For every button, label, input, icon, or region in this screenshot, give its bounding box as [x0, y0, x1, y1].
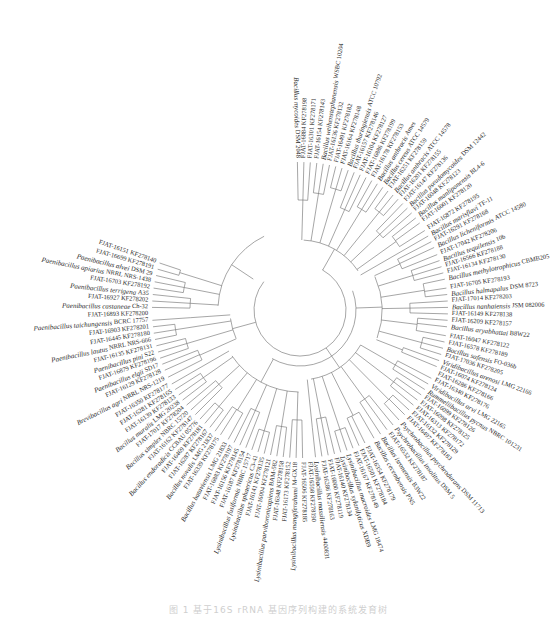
subclade-arc: [201, 373, 207, 381]
leaf-branch: [153, 295, 191, 299]
subclade-stem: [302, 200, 303, 240]
leaf-branch: [383, 213, 412, 238]
leaf-branch: [187, 381, 216, 405]
subclade-stem: [382, 308, 410, 309]
leaf-branch: [384, 199, 399, 215]
strain-id: JSM 082006: [512, 301, 545, 309]
leaf-branch: [312, 427, 315, 457]
tree-branches: [152, 162, 448, 458]
leaf-branch: [362, 184, 378, 210]
species-name: Paenibacillus castaneae: [61, 301, 132, 310]
subclade-stem: [187, 330, 233, 344]
subclade-stem: [357, 242, 396, 270]
subclade-stem: [375, 264, 400, 276]
strain-id: DSM 12442: [460, 131, 488, 158]
subclade-stem: [297, 392, 298, 420]
leaf-branch: [303, 162, 304, 200]
leaf-branch: [271, 426, 277, 455]
subclade-arc: [251, 408, 260, 412]
subclade-stem: [190, 303, 218, 305]
subclade-stem: [307, 380, 312, 428]
subclade-stem: [337, 209, 362, 250]
strain-id: DSM 11713: [460, 487, 486, 515]
subclade-stem: [255, 385, 266, 411]
leaf-branch: [179, 378, 204, 395]
subclade-arc: [398, 259, 402, 269]
strain-id: M-GX18: [291, 462, 299, 486]
leaf-branch: [296, 420, 297, 458]
leaf-branch: [210, 410, 223, 427]
strain-id: 4400831: [321, 537, 330, 560]
subclade-stem: [176, 321, 231, 330]
leaf-branch: [340, 172, 354, 207]
subclade-arc: [392, 237, 399, 247]
leaf-branch: [183, 382, 207, 400]
clade-stem: [323, 249, 335, 270]
strain-id: ATCC 14578: [425, 122, 452, 153]
leaf-branch: [154, 288, 184, 293]
leaf-branch: [302, 420, 303, 458]
leaf-branch: [409, 236, 428, 247]
strain-id: XDB9: [361, 530, 372, 548]
leaf-branch: [402, 352, 437, 367]
leaf-branch: [384, 404, 399, 420]
strain-id: ATCC 10792: [366, 73, 384, 107]
leaf-branch: [366, 187, 383, 212]
leaf-label: Paenibacillus castaneae Ch-32: [61, 301, 148, 311]
leaf-branch: [420, 348, 441, 355]
clade-stem: [232, 265, 254, 279]
leaf-branch: [152, 318, 190, 321]
leaf-branch: [316, 419, 322, 457]
subclade-stem: [180, 273, 222, 286]
leaf-branch: [416, 331, 446, 336]
subclade-arc: [215, 403, 223, 410]
subclade-arc: [390, 378, 396, 386]
leaf-branch: [246, 412, 260, 447]
leaf-branch: [423, 337, 445, 342]
leaf-branch: [379, 195, 393, 212]
leaf-branch: [158, 269, 179, 275]
leaf-branch: [335, 431, 341, 452]
leaf-branch: [352, 416, 365, 443]
leaf-branch: [359, 412, 374, 438]
leaf-branch: [425, 288, 447, 291]
subclade-stem: [311, 194, 319, 241]
leaf-branch: [402, 255, 437, 269]
strain-id: LMG 18474: [369, 520, 386, 553]
subclade-stem: [381, 290, 424, 297]
subclade-stem: [313, 379, 321, 418]
leaf-branch: [172, 373, 191, 384]
subclade-stem: [361, 345, 396, 365]
leaf-branch: [410, 307, 448, 308]
leaf-branch: [258, 431, 264, 452]
leaf-branch: [345, 428, 353, 449]
clade-stem: [261, 359, 273, 382]
subclade-stem: [264, 389, 277, 431]
leaf-branch: [228, 413, 243, 439]
subclade-stem: [376, 340, 402, 350]
leaf-branch: [410, 301, 448, 303]
leaf-branch: [340, 430, 347, 451]
leaf-branch: [331, 166, 336, 187]
leaf-branch: [390, 386, 413, 405]
subclade-stem: [191, 351, 229, 373]
leaf-branch: [162, 350, 197, 364]
leaf-branch: [394, 382, 418, 400]
leaf-branch: [400, 231, 425, 247]
strain-id: LMG 22166: [500, 379, 532, 396]
leaf-branch: [393, 395, 409, 410]
leaf-branch: [264, 432, 269, 453]
strain-id: Ch-32: [132, 302, 148, 309]
leaf-branch: [410, 313, 448, 314]
subclade-stem: [184, 288, 219, 295]
species-name: Lysinibacillus mangiferahumi: [289, 485, 299, 572]
subclade-stem: [381, 320, 417, 324]
leaf-branch: [357, 181, 372, 207]
leaf-branch: [165, 355, 200, 371]
leaf-branch: [413, 267, 442, 276]
figure-caption: 图 1 基于16S rRNA 基因序列构建的系统发育树: [0, 603, 557, 617]
subclade-stem: [356, 353, 394, 382]
strain-id: WSBC 10204: [332, 42, 345, 79]
leaf-branch: [155, 335, 177, 339]
clade-stem: [233, 322, 256, 328]
